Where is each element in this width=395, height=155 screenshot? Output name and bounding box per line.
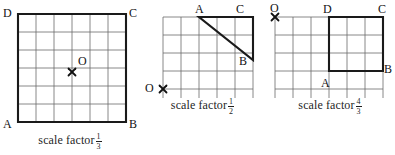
vertex-label-B: B bbox=[239, 55, 247, 67]
fraction-denominator: 3 bbox=[356, 107, 362, 116]
fraction-denominator: 3 bbox=[96, 142, 102, 151]
origin-label-O: O bbox=[78, 55, 87, 67]
origin-label-O: O bbox=[145, 82, 154, 94]
vertex-label-B: B bbox=[129, 118, 137, 130]
fraction-numerator: 1 bbox=[228, 98, 234, 107]
caption-figure-2: scale factor12 bbox=[140, 98, 265, 116]
figure-triangle-scale-one-half: A C B O scale factor12 bbox=[140, 0, 265, 155]
scale-factor-fraction: 12 bbox=[228, 98, 234, 116]
caption-figure-3: scale factor43 bbox=[265, 98, 395, 116]
scale-factor-fraction: 43 bbox=[356, 98, 362, 116]
vertex-label-D: D bbox=[3, 7, 12, 19]
scale-factor-fraction: 13 bbox=[96, 133, 102, 151]
vertex-label-C: C bbox=[236, 3, 244, 15]
vertex-label-A: A bbox=[321, 77, 330, 89]
caption-text: scale factor bbox=[171, 98, 227, 112]
vertex-label-A: A bbox=[195, 3, 204, 15]
shape-square-ABCD bbox=[329, 17, 383, 71]
vertex-label-D: D bbox=[323, 3, 332, 15]
vertex-label-C: C bbox=[378, 3, 386, 15]
fraction-numerator: 4 bbox=[356, 98, 362, 107]
vertex-label-A: A bbox=[3, 118, 12, 130]
grid-lines bbox=[18, 14, 126, 122]
fraction-denominator: 2 bbox=[228, 107, 234, 116]
vertex-label-B: B bbox=[384, 63, 392, 75]
origin-label-O: O bbox=[270, 2, 279, 14]
caption-text: scale factor bbox=[298, 98, 354, 112]
figure-1-diagram bbox=[0, 0, 140, 132]
figure-square-scale-one-third: D C A B O scale factor13 bbox=[0, 0, 140, 155]
caption-figure-1: scale factor13 bbox=[0, 133, 140, 151]
vertex-label-C: C bbox=[129, 7, 137, 19]
caption-text: scale factor bbox=[38, 133, 94, 147]
figure-square-scale-four-thirds: O D C B A scale factor43 bbox=[265, 0, 395, 155]
fraction-numerator: 1 bbox=[96, 133, 102, 142]
